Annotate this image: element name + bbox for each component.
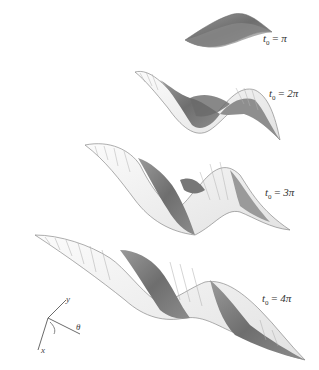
y-axis-arrow <box>48 300 66 318</box>
axes-triad <box>38 300 80 350</box>
surface-t0-3pi <box>85 144 290 235</box>
label-val: π <box>281 32 287 44</box>
label-val: 3π <box>283 186 294 198</box>
figure-canvas <box>0 0 319 370</box>
axis-label-y: y <box>66 294 70 304</box>
label-eq: = <box>272 186 284 198</box>
axis-label-theta: θ <box>76 322 80 332</box>
axis-label-x: x <box>41 345 45 355</box>
label-eq: = <box>270 32 282 44</box>
surface-t0-pi <box>185 14 272 48</box>
label-t0-4pi: t0 = 4π <box>262 292 291 307</box>
label-val: 2π <box>287 87 298 99</box>
label-val: 4π <box>280 292 291 304</box>
label-t0-2pi: t0 = 2π <box>269 87 298 102</box>
label-eq: = <box>276 87 288 99</box>
label-t0-pi: t0 = π <box>263 32 287 47</box>
label-t0-3pi: t0 = 3π <box>265 186 294 201</box>
label-eq: = <box>269 292 281 304</box>
surface-t0-2pi <box>135 71 280 140</box>
